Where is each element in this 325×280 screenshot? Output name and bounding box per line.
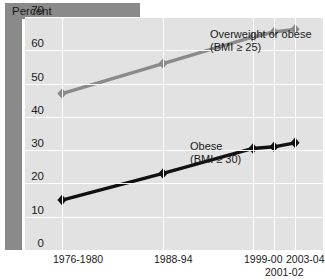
series-label-overweight-line2: (BMI ≥ 25) bbox=[210, 41, 312, 54]
y-tick-label-0: 0 bbox=[0, 237, 44, 249]
y-tick-label-60: 60 bbox=[0, 37, 44, 49]
series-label-obese-line2: (BMI ≥ 30) bbox=[190, 153, 241, 166]
series-label-obese: Obese (BMI ≥ 30) bbox=[190, 140, 241, 165]
x-tick-label-1999-00: 1999-00 bbox=[244, 253, 283, 265]
y-tick-label-40: 40 bbox=[0, 104, 44, 116]
y-tick-label-30: 30 bbox=[0, 137, 44, 149]
y-tick-label-70: 70 bbox=[0, 4, 44, 16]
series-label-obese-line1: Obese bbox=[190, 140, 241, 153]
x-tick-label-2001-02: 2001-02 bbox=[265, 266, 304, 278]
series-label-overweight: Overweight or obese (BMI ≥ 25) bbox=[210, 28, 312, 53]
gridline-x-0 bbox=[62, 17, 63, 250]
x-tick-label-1976-1980: 1976-1980 bbox=[53, 253, 103, 265]
y-tick-label-20: 20 bbox=[0, 170, 44, 182]
gridline-y-20 bbox=[25, 183, 323, 184]
y-tick-label-10: 10 bbox=[0, 204, 44, 216]
x-tick-label-1988-94: 1988-94 bbox=[154, 253, 193, 265]
gridline-y-70 bbox=[25, 17, 323, 18]
y-tick-label-50: 50 bbox=[0, 71, 44, 83]
gridline-x-1 bbox=[163, 17, 164, 250]
x-tick-label-2003-04: 2003-04 bbox=[286, 253, 325, 265]
series-label-overweight-line1: Overweight or obese bbox=[210, 28, 312, 41]
gridline-y-10 bbox=[25, 217, 323, 218]
gridline-y-30 bbox=[25, 150, 323, 151]
gridline-y-0 bbox=[25, 250, 323, 251]
series-line-obese bbox=[62, 143, 295, 200]
gridline-y-50 bbox=[25, 84, 323, 85]
gridline-y-40 bbox=[25, 117, 323, 118]
